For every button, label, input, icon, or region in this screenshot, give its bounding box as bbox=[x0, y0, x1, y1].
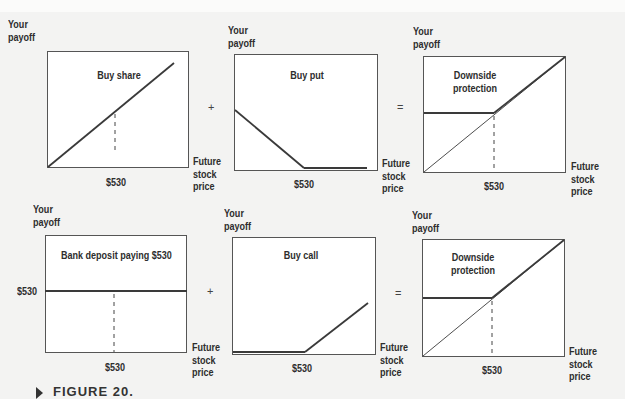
y-label-line-1: Your bbox=[8, 18, 35, 31]
strike-label: $530 bbox=[99, 176, 133, 189]
strike-label: $530 bbox=[98, 361, 132, 374]
x-label-line-3: price bbox=[193, 180, 221, 193]
panel-title-downside-protection: Downside protection bbox=[447, 251, 499, 276]
y-label-line-2: payoff bbox=[33, 216, 60, 229]
y-axis-label: Your payoff bbox=[228, 24, 255, 49]
title-line-2: protection bbox=[449, 82, 501, 95]
x-label-line-1: Future bbox=[571, 160, 599, 173]
x-label-line-1: Future bbox=[193, 155, 221, 168]
x-axis-label: Future stock price bbox=[569, 345, 597, 383]
equals-operator: = bbox=[395, 287, 401, 299]
x-label-line-3: price bbox=[380, 366, 408, 379]
y-label-line-2: payoff bbox=[228, 37, 255, 50]
y-axis-label: Your payoff bbox=[413, 25, 440, 50]
y-label-line-1: Your bbox=[33, 203, 60, 216]
y-label-line-2: payoff bbox=[224, 220, 251, 233]
title-line-2: protection bbox=[447, 264, 499, 277]
caption-marker-icon bbox=[36, 387, 43, 399]
x-axis-label: Future stock price bbox=[192, 341, 220, 379]
panel-title-buy-call: Buy call bbox=[271, 249, 331, 262]
y-tick-label: $530 bbox=[17, 285, 37, 298]
y-label-line-1: Your bbox=[412, 209, 439, 222]
y-label-line-2: payoff bbox=[8, 31, 35, 44]
y-label-line-1: Your bbox=[413, 25, 440, 38]
x-label-line-2: stock bbox=[380, 354, 408, 367]
y-label-line-2: payoff bbox=[413, 38, 440, 51]
figure-caption: FIGURE 20. bbox=[36, 384, 134, 399]
x-label-line-1: Future bbox=[569, 345, 597, 358]
x-label-line-2: stock bbox=[569, 358, 597, 371]
x-label-line-3: price bbox=[569, 370, 597, 383]
strike-label: $530 bbox=[475, 364, 509, 377]
strike-label: $530 bbox=[477, 180, 511, 193]
y-axis-label: Your payoff bbox=[412, 209, 439, 234]
x-label-line-2: stock bbox=[382, 170, 410, 183]
x-axis-label: Future stock price bbox=[380, 341, 408, 379]
x-label-line-2: stock bbox=[571, 173, 599, 186]
x-label-line-3: price bbox=[382, 182, 410, 195]
panel-title-buy-share: Buy share bbox=[89, 69, 149, 82]
y-axis-label: Your payoff bbox=[224, 207, 251, 232]
x-label-line-3: price bbox=[192, 366, 220, 379]
plus-operator: + bbox=[207, 285, 213, 297]
strike-label: $530 bbox=[287, 178, 321, 191]
x-label-line-1: Future bbox=[192, 341, 220, 354]
strike-label: $530 bbox=[285, 362, 319, 375]
panel-title-buy-put: Buy put bbox=[277, 69, 337, 82]
top-band bbox=[0, 0, 625, 12]
y-axis-label: Your payoff bbox=[8, 18, 35, 43]
panel-title-bank-deposit: Bank deposit paying $530 bbox=[61, 249, 171, 262]
x-axis-label: Future stock price bbox=[382, 157, 410, 195]
panel-title-downside-protection: Downside protection bbox=[449, 69, 501, 94]
title-line-1: Downside bbox=[447, 251, 499, 264]
plus-operator: + bbox=[208, 101, 214, 113]
x-label-line-1: Future bbox=[382, 157, 410, 170]
x-label-line-2: stock bbox=[193, 168, 221, 181]
x-label-line-2: stock bbox=[192, 354, 220, 367]
x-axis-label: Future stock price bbox=[193, 155, 221, 193]
x-axis-label: Future stock price bbox=[571, 160, 599, 198]
title-line-1: Downside bbox=[449, 69, 501, 82]
equals-operator: = bbox=[397, 101, 403, 113]
y-label-line-1: Your bbox=[224, 207, 251, 220]
y-label-line-2: payoff bbox=[412, 222, 439, 235]
y-label-line-1: Your bbox=[228, 24, 255, 37]
y-axis-label: Your payoff bbox=[33, 203, 60, 228]
x-label-line-3: price bbox=[571, 185, 599, 198]
x-label-line-1: Future bbox=[380, 341, 408, 354]
caption-text: FIGURE 20. bbox=[53, 384, 134, 399]
